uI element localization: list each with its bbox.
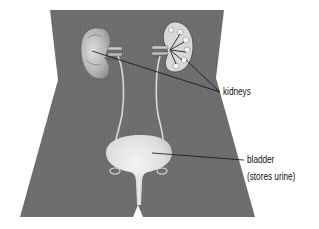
bladder-label: bladder — [247, 154, 274, 166]
kidneys-label: kidneys — [223, 86, 251, 98]
urinary-system-diagram: kidneys bladder (stores urine) — [0, 0, 319, 229]
diagram-canvas — [0, 0, 319, 229]
bladder-sublabel: (stores urine) — [247, 171, 295, 183]
